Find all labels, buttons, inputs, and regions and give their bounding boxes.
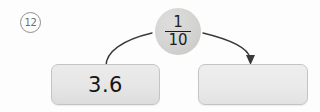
fraction: 1 10 <box>165 15 191 49</box>
output-answer-box[interactable] <box>198 64 308 105</box>
curve-from-input-to-operator <box>106 33 152 66</box>
operator-bubble: 1 10 <box>155 8 201 55</box>
fraction-denominator: 10 <box>168 32 187 48</box>
input-value-box: 3.6 <box>51 64 160 105</box>
input-value: 3.6 <box>88 73 123 97</box>
curve-from-operator-to-output <box>203 33 250 58</box>
worksheet-problem: 12 1 10 3.6 <box>0 0 320 112</box>
fraction-numerator: 1 <box>173 15 183 31</box>
